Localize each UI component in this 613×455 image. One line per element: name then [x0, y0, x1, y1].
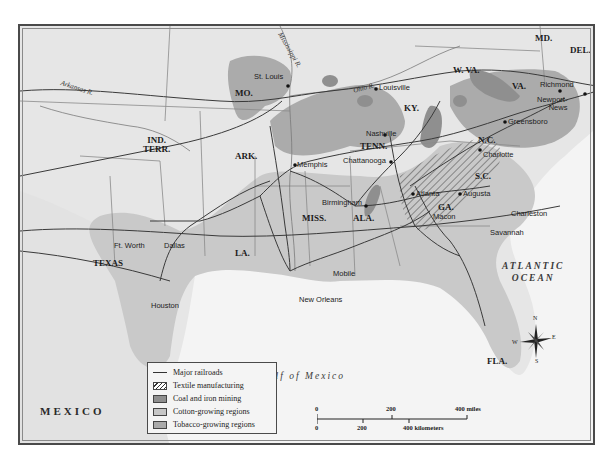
compass-s: S [535, 358, 538, 364]
coal-region-ky [420, 106, 442, 148]
compass-w: W [512, 339, 518, 345]
coal-region-ky-east [453, 95, 467, 107]
coal-swatch [153, 395, 167, 403]
map-frame: MO. KY. W. VA. VA. MD. DEL. IND. TERR. A… [18, 24, 595, 445]
water-label-atlantic: ATLANTIC OCEAN [502, 260, 564, 284]
legend-item-textile: Textile manufacturing [153, 379, 271, 392]
city-label-macon: Macon [433, 213, 456, 221]
scale-km-0: 0 [315, 424, 318, 431]
coal-region-il-1 [322, 75, 338, 87]
country-label-mexico: MEXICO [40, 405, 104, 417]
scale-bar: 0 200 400 miles 0 200 400 kilometers [317, 404, 477, 434]
city-label-dallas: Dallas [164, 242, 185, 250]
state-label-sc: S.C. [475, 172, 491, 181]
scale-km-400: 400 kilometers [403, 424, 444, 431]
state-label-md: MD. [535, 34, 552, 43]
city-label-augusta: Augusta [463, 190, 491, 198]
city-label-savannah: Savannah [490, 229, 524, 237]
city-label-houston: Houston [151, 302, 179, 310]
state-label-tenn: TENN. [360, 142, 387, 151]
city-label-birmingham: Birmingham [322, 199, 362, 207]
compass-rose: N S E W [516, 318, 556, 364]
city-label-atlanta: Atlanta [416, 190, 439, 198]
city-label-charleston: Charleston [511, 210, 547, 218]
railroad-line-swatch [153, 372, 167, 373]
scale-miles-0: 0 [315, 405, 318, 412]
city-label-richmond: Richmond [540, 81, 574, 89]
tobacco-swatch [153, 421, 167, 429]
state-label-texas: TEXAS [93, 259, 123, 268]
state-label-ga: GA. [438, 203, 454, 212]
compass-n: N [533, 315, 537, 321]
state-label-ark: ARK. [235, 152, 257, 161]
city-label-greensboro: Greensboro [508, 118, 548, 126]
city-label-newport-news: Newport- News [537, 96, 567, 112]
state-label-del: DEL. [570, 46, 591, 55]
coal-region-il-2 [357, 95, 373, 107]
textile-hatch-swatch [153, 382, 167, 390]
state-label-fla: FLA. [487, 357, 507, 366]
state-label-mo: MO. [235, 89, 253, 98]
state-label-miss: MISS. [302, 214, 326, 223]
city-label-nashville: Nashville [366, 130, 396, 138]
city-label-st-louis: St. Louis [254, 73, 283, 81]
state-label-ky: KY. [404, 104, 419, 113]
state-label-ind-terr: IND. TERR. [143, 136, 170, 154]
city-label-chattanooga: Chattanooga [343, 157, 386, 165]
legend-item-coal: Coal and iron mining [153, 392, 271, 405]
legend-item-cotton: Cotton-growing regions [153, 405, 271, 418]
scale-miles-400: 400 miles [455, 405, 481, 412]
city-label-mobile: Mobile [333, 270, 355, 278]
city-label-memphis: Memphis [297, 161, 327, 169]
state-label-nc: N.C. [478, 136, 496, 145]
scale-km-200: 200 [357, 424, 367, 431]
legend-item-railroads: Major railroads [153, 366, 271, 379]
state-label-wva: W. VA. [453, 66, 480, 75]
state-label-ala: ALA. [353, 214, 374, 223]
city-label-charlotte: Charlotte [483, 151, 513, 159]
city-label-ft-worth: Ft. Worth [114, 242, 145, 250]
compass-e: E [552, 334, 556, 340]
cotton-swatch [153, 408, 167, 416]
city-label-new-orleans: New Orleans [299, 296, 342, 304]
city-label-louisville: Louisville [379, 84, 410, 92]
scale-bar-graphic [317, 404, 477, 434]
legend-item-tobacco: Tobacco-growing regions [153, 418, 271, 431]
scale-miles-200: 200 [386, 405, 396, 412]
state-label-la: LA. [235, 249, 250, 258]
map-legend: Major railroads Textile manufacturing Co… [147, 362, 277, 434]
state-label-va: VA. [512, 82, 526, 91]
